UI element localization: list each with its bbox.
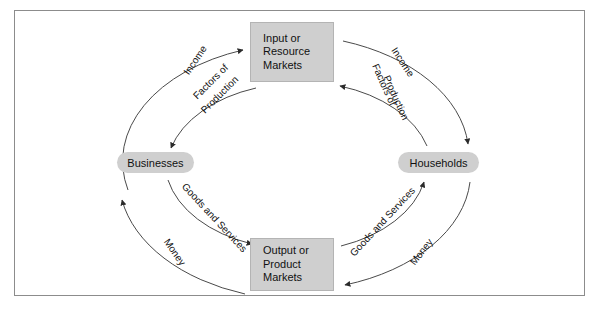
node-output-product-markets[interactable]: Output or Product Markets (250, 238, 334, 291)
diagram-canvas: Income Factors of Production Income Fact… (0, 0, 599, 310)
node-output-line1: Output or (263, 244, 333, 258)
label-money-left: Money (162, 237, 188, 268)
label-money-right: Money (408, 237, 435, 267)
node-households-label: Households (409, 157, 467, 169)
node-output-line3: Markets (263, 271, 333, 285)
label-goods-left: Goods and Services (180, 181, 249, 254)
node-input-line1: Input or (263, 32, 333, 46)
node-output-line2: Product (263, 258, 333, 272)
label-income-right: Income (389, 45, 416, 79)
node-input-line2: Resource (263, 45, 333, 59)
node-input-resource-markets[interactable]: Input or Resource Markets (250, 22, 334, 82)
node-businesses[interactable]: Businesses (117, 152, 194, 173)
node-input-line3: Markets (263, 59, 333, 73)
node-businesses-label: Businesses (127, 157, 183, 169)
node-households[interactable]: Households (398, 152, 479, 173)
label-income-left: Income (181, 43, 209, 77)
label-goods-right: Goods and Services (348, 185, 417, 258)
arc-money-left (122, 200, 245, 294)
